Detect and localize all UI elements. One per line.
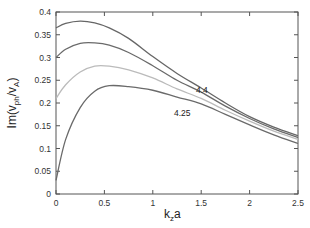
axis-ticks: 00.511.522.500.050.10.150.20.250.30.350.… (34, 7, 304, 208)
series-lines (56, 21, 298, 180)
curve-1-line (56, 21, 298, 136)
x-tick-label: 0 (54, 198, 59, 208)
y-tick-label: 0.05 (34, 166, 51, 176)
x-tick-label: 0.5 (98, 198, 110, 208)
annotation-4.25: 4.25 (174, 108, 191, 118)
y-tick-label: 0.1 (39, 144, 51, 154)
chart-canvas: 00.511.522.500.050.10.150.20.250.30.350.… (0, 0, 310, 228)
y-tick-label: 0.4 (39, 7, 51, 17)
y-tick-label: 0.3 (39, 53, 51, 63)
y-tick-label: 0.15 (34, 121, 51, 131)
plot-frame (56, 12, 298, 194)
x-tick-label: 1 (150, 198, 155, 208)
x-axis-label: kza (164, 207, 181, 223)
x-tick-label: 2.5 (292, 198, 304, 208)
y-tick-label: 0 (46, 189, 51, 199)
annotation-4.4: 4.4 (196, 85, 208, 95)
y-axis-label: Im(vph/vA) (5, 78, 21, 129)
x-tick-label: 1.5 (195, 198, 207, 208)
curve-4-line (56, 85, 298, 180)
plot-border (56, 12, 298, 194)
curve-2-line (56, 43, 298, 138)
y-tick-label: 0.25 (34, 75, 51, 85)
y-tick-label: 0.35 (34, 30, 51, 40)
x-tick-label: 2 (247, 198, 252, 208)
y-tick-label: 0.2 (39, 98, 51, 108)
curve-3-line (56, 66, 298, 140)
